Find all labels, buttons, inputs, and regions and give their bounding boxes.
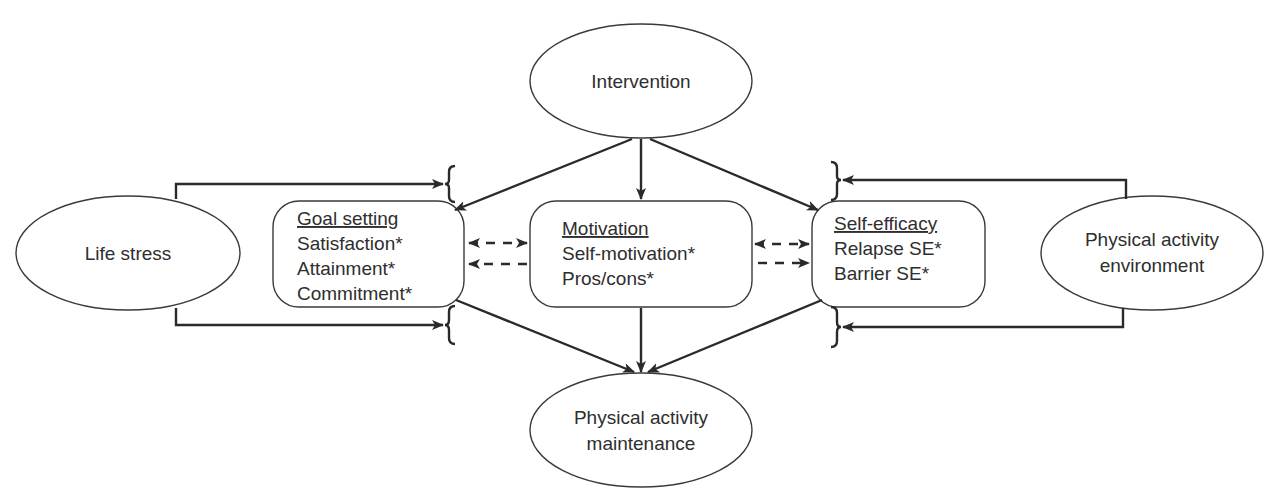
motivation-item: Pros/cons* <box>562 268 654 289</box>
node-motivation: Motivation Self-motivation* Pros/cons* <box>530 201 752 307</box>
node-goal-setting: Goal setting Satisfaction* Attainment* C… <box>273 201 464 307</box>
motivation-title: Motivation <box>562 218 649 239</box>
environment-label-line2: environment <box>1100 255 1205 276</box>
arrow-environment-bottom <box>843 308 1123 327</box>
mediator-model-diagram: Intervention Life stress Physical activi… <box>0 0 1284 503</box>
node-physical-activity-environment: Physical activity environment <box>1041 196 1263 310</box>
arrow-intervention-to-goal <box>455 139 632 210</box>
brace-left-top <box>445 166 455 202</box>
self-efficacy-title: Self-efficacy <box>834 213 938 234</box>
arrow-intervention-to-self-efficacy <box>650 139 818 210</box>
brace-right-bottom <box>831 307 841 347</box>
self-efficacy-item: Relapse SE* <box>834 238 942 259</box>
self-efficacy-item: Barrier SE* <box>834 263 930 284</box>
motivation-item: Self-motivation* <box>562 243 696 264</box>
node-intervention: Intervention <box>530 24 752 138</box>
intervention-label: Intervention <box>591 71 690 92</box>
node-life-stress: Life stress <box>16 196 240 310</box>
node-physical-activity-maintenance: Physical activity maintenance <box>530 373 752 487</box>
arrow-goal-to-maintenance <box>456 300 634 372</box>
goal-setting-item: Satisfaction* <box>297 233 403 254</box>
life-stress-label: Life stress <box>85 243 172 264</box>
node-self-efficacy: Self-efficacy Relapse SE* Barrier SE* <box>812 201 985 307</box>
arrow-environment-top <box>843 180 1126 199</box>
goal-setting-item: Commitment* <box>297 283 413 304</box>
goal-setting-title: Goal setting <box>297 208 398 229</box>
brace-right-top <box>831 162 841 200</box>
environment-label-line1: Physical activity <box>1085 229 1220 250</box>
maintenance-label-line1: Physical activity <box>574 407 709 428</box>
goal-setting-item: Attainment* <box>297 258 396 279</box>
arrow-life-stress-top <box>176 184 443 199</box>
arrow-life-stress-bottom <box>176 308 443 325</box>
brace-left-bottom <box>445 306 455 344</box>
arrow-self-efficacy-to-maintenance <box>648 300 822 372</box>
maintenance-label-line2: maintenance <box>587 433 696 454</box>
